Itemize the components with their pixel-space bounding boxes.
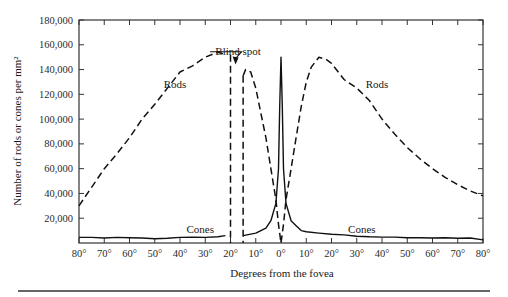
cones-label: Cones	[348, 223, 376, 235]
y-tick-label: 20,000	[44, 213, 73, 224]
y-tick-label: 40,000	[44, 188, 73, 199]
y-tick-label: 80,000	[44, 138, 73, 149]
y-tick-label: 60,000	[44, 163, 73, 174]
x-tick-label: 80°	[72, 248, 87, 259]
rods-label: Rods	[366, 78, 389, 90]
x-tick-label: 0°	[276, 248, 285, 259]
x-tick-label: 40°	[173, 248, 188, 259]
x-tick-label: 70°	[450, 248, 465, 259]
x-tick-label: 70°	[97, 248, 112, 259]
cones-label: Cones	[186, 223, 214, 235]
cones-curve	[79, 236, 225, 239]
y-axis-ticks: 20,00040,00060,00080,000100,000120,00014…	[39, 15, 483, 224]
rods-curve	[79, 52, 225, 206]
plot-frame	[79, 20, 483, 243]
x-tick-label: 60°	[122, 248, 137, 259]
cones-curve	[243, 57, 483, 240]
x-axis-ticks: 80°70°60°50°40°30°20°10°0°10°20°30°40°50…	[72, 20, 491, 259]
x-tick-label: 40°	[375, 248, 390, 259]
arrowhead-icon	[233, 57, 239, 65]
y-tick-label: 140,000	[39, 64, 73, 75]
rods-label: Rods	[164, 78, 187, 90]
y-tick-label: 180,000	[39, 15, 73, 26]
x-tick-label: 20°	[223, 248, 238, 259]
x-tick-label: 30°	[349, 248, 364, 259]
y-tick-label: 100,000	[39, 114, 73, 125]
y-axis-title: Number of rods or cones per mm²	[11, 56, 23, 206]
x-tick-label: 20°	[324, 248, 339, 259]
data-series	[79, 52, 483, 243]
rod-cone-density-chart: Number of rods or cones per mm² 20,00040…	[0, 0, 508, 297]
y-axis-label: Number of rods or cones per mm²	[11, 56, 23, 206]
x-tick-label: 50°	[400, 248, 415, 259]
x-tick-label: 10°	[248, 248, 263, 259]
x-tick-label: 50°	[147, 248, 162, 259]
x-tick-label: 80°	[476, 248, 491, 259]
x-tick-label: 30°	[198, 248, 213, 259]
x-axis-label: Degrees from the fovea	[230, 267, 334, 279]
x-tick-label: 60°	[425, 248, 440, 259]
y-tick-label: 160,000	[39, 39, 73, 50]
x-tick-label: 10°	[299, 248, 314, 259]
y-tick-label: 120,000	[39, 89, 73, 100]
